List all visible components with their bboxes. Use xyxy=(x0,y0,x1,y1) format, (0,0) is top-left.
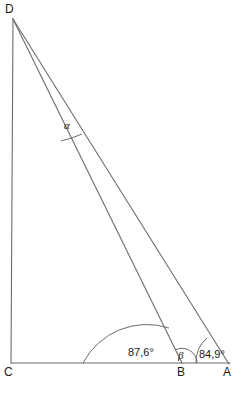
vertex-label-A: A xyxy=(223,365,231,379)
vertex-label-D: D xyxy=(5,2,14,16)
angle-label-beta-at-B: β xyxy=(177,349,184,361)
angle-label-at-C: 87,6° xyxy=(128,346,154,358)
vertex-label-B: B xyxy=(177,365,185,379)
angle-label-alpha-at-D: α xyxy=(64,119,70,131)
segment-DC xyxy=(11,19,13,363)
angle-label-at-A: 84,9° xyxy=(199,348,225,360)
angle-arc-at-C xyxy=(83,324,169,363)
geometry-canvas: D C B A 87,6° β 84,9° α xyxy=(0,0,242,397)
vertex-label-C: C xyxy=(4,365,13,379)
segment-DB xyxy=(13,19,182,363)
segment-DA xyxy=(13,19,229,364)
geometry-diagram: D C B A 87,6° β 84,9° α xyxy=(0,0,242,397)
